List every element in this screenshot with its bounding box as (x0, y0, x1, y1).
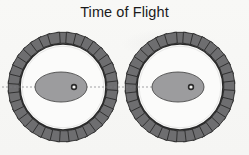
right-chopper-wheel-shaded-ellipse (152, 72, 204, 102)
diagram-canvas (0, 0, 249, 155)
right-chopper-wheel-core (152, 72, 204, 102)
time-of-flight-figure: Time of Flight (0, 0, 249, 155)
right-chopper-wheel-hub-core (189, 85, 192, 88)
left-chopper-wheel-core (35, 72, 87, 102)
left-chopper-wheel-hub-core (72, 85, 75, 88)
left-chopper-wheel-shaded-ellipse (35, 72, 87, 102)
